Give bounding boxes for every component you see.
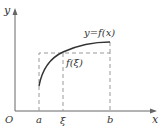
mean-value-diagram: y x O a ξ b y=f(x) f(ξ) — [0, 0, 161, 133]
f-xi-label: f(ξ) — [65, 57, 83, 68]
point-a-label: a — [36, 114, 42, 125]
y-axis-label: y — [3, 4, 11, 17]
x-axis-label: x — [152, 113, 159, 126]
curve-label: y=f(x) — [83, 27, 115, 38]
y-axis-arrow-icon — [13, 8, 18, 15]
point-b-label: b — [107, 114, 113, 125]
origin-label: O — [5, 114, 13, 125]
point-xi-label: ξ — [60, 115, 66, 126]
